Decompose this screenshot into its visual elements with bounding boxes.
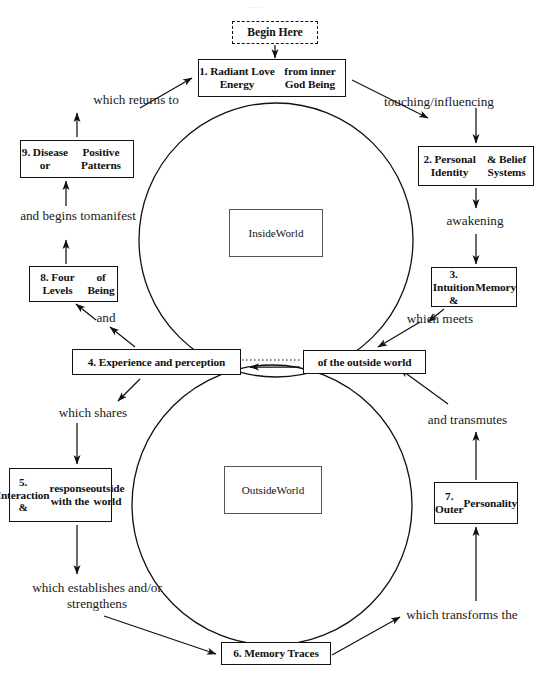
node-of-the-outside-world[interactable]: of the outside world (303, 350, 426, 374)
text-line: Personality (464, 497, 518, 510)
text-line: 6. Memory Traces (233, 647, 319, 660)
text-line: which meets (407, 311, 473, 326)
text-line: of the outside world (318, 356, 412, 369)
node-9-disease-positive[interactable]: 9. Disease orPositive Patterns (20, 140, 134, 178)
outside-world-label: OutsideWorld (224, 466, 322, 514)
text-line: 7. Outer (435, 490, 464, 516)
text-line: which establishes and/ (32, 580, 151, 595)
connector-label-touching-influencing: touching/influencing (364, 94, 514, 110)
text-line: World (277, 484, 305, 497)
text-line: 1. Radiant Love Energy (199, 65, 275, 91)
text-line: touching/influencing (384, 94, 494, 109)
text-line: awakening (446, 213, 503, 228)
text-line: response with the (50, 482, 91, 508)
text-line: of Being (85, 271, 117, 297)
node-7-outer-personality[interactable]: 7. OuterPersonality (434, 482, 518, 524)
connector-label-which-returns-to: which returns to (66, 92, 206, 108)
begin-here-box[interactable]: Begin Here (232, 21, 318, 44)
text-line: which shares (59, 405, 127, 420)
text-line: 3. Intuition & (432, 268, 475, 307)
arrow-establishes-to-node6 (104, 616, 216, 654)
node-1-radiant-love-energy[interactable]: 1. Radiant Love Energyfrom inner God Bei… (198, 59, 346, 97)
text-line: Outside (242, 484, 277, 497)
text-line: and transmutes (428, 412, 507, 427)
connector-label-and-begins-to-manifest: and begins tomanifest (18, 208, 138, 224)
connector-label-which-establishes: which establishes and/or strengthens (6, 580, 188, 612)
text-line: Begin Here (247, 26, 303, 39)
connector-label-and: and (86, 310, 126, 326)
text-line: 2. Personal Identity (419, 153, 480, 179)
faint-header-text: ..... (248, 1, 263, 10)
connector-label-which-shares: which shares (33, 405, 153, 421)
text-line: and begins to (20, 208, 90, 223)
arrow-node4-to-and (110, 327, 135, 347)
node-2-personal-identity[interactable]: 2. Personal Identity& Belief Systems (418, 146, 534, 186)
arrow-transmutes-to-outside (400, 369, 448, 404)
text-line: from inner God Being (275, 65, 345, 91)
arrow-node4-to-which-shares (118, 379, 140, 401)
text-line: 4. Experience and perception (88, 356, 226, 369)
connector-label-which-meets: which meets (385, 311, 495, 327)
text-line: 5. Interaction & (0, 476, 50, 515)
text-line: Inside (248, 227, 275, 240)
node-8-four-levels-of-being[interactable]: 8. Four Levelsof Being (29, 266, 118, 302)
text-line: 8. Four Levels (30, 271, 85, 297)
text-line: & Belief Systems (480, 153, 533, 179)
text-line: World (276, 227, 304, 240)
text-line: Positive Patterns (69, 146, 133, 172)
text-line: which transforms the (406, 607, 517, 622)
text-line: manifest (90, 208, 135, 223)
node-4-experience-perception[interactable]: 4. Experience and perception (72, 349, 241, 375)
diagram-canvas: ..... (0, 0, 541, 676)
node-5-interaction-response[interactable]: 5. Interaction &response with theoutside… (9, 468, 112, 522)
node-3-intuition-memory[interactable]: 3. Intuition &Memory (431, 267, 517, 307)
connector-label-and-transmutes: and transmutes (405, 412, 530, 428)
connector-label-which-transforms-the: which transforms the (382, 607, 541, 623)
text-line: which returns to (93, 92, 179, 107)
text-line: outside world (91, 482, 125, 508)
connector-label-awakening: awakening (425, 213, 525, 229)
text-line: 9. Disease or (21, 146, 69, 172)
node-6-memory-traces[interactable]: 6. Memory Traces (221, 642, 331, 665)
inside-world-label: InsideWorld (229, 209, 323, 257)
text-line: and (96, 310, 115, 325)
text-line: Memory (475, 281, 516, 294)
